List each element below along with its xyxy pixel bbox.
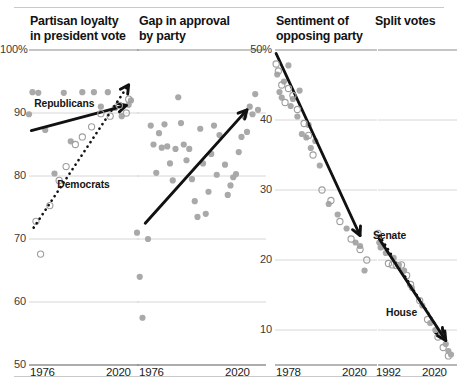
data-point — [98, 111, 104, 117]
data-point — [61, 90, 67, 96]
data-point — [51, 170, 57, 176]
data-point — [238, 134, 244, 140]
data-point — [352, 239, 358, 245]
data-point — [389, 262, 395, 268]
data-point — [79, 89, 85, 95]
panel-plot-3 — [0, 0, 457, 383]
data-point — [432, 327, 438, 333]
series-annotation-label: Republicans — [34, 98, 94, 109]
data-point — [42, 127, 48, 133]
data-point — [214, 172, 220, 178]
data-point — [175, 94, 181, 100]
data-point — [285, 62, 291, 68]
data-point — [216, 132, 222, 138]
data-point — [326, 201, 332, 207]
series-annotation-label: House — [386, 307, 417, 318]
data-point — [305, 132, 311, 138]
data-point — [88, 124, 94, 130]
data-point — [364, 257, 370, 263]
data-point — [419, 302, 425, 308]
data-point — [197, 126, 203, 132]
data-point — [391, 255, 397, 261]
y-axis-tick-label: 40 — [246, 113, 272, 125]
y-axis-tick-label: 80 — [0, 169, 26, 181]
data-point — [134, 230, 140, 236]
data-point — [153, 170, 159, 176]
data-point — [443, 341, 449, 347]
data-point — [445, 348, 451, 354]
data-point — [294, 106, 300, 112]
trend-arrowhead — [120, 85, 128, 94]
trend-arrowhead — [117, 103, 126, 111]
panel-title-3: Sentiment of opposing party — [276, 14, 363, 43]
data-point — [294, 113, 300, 119]
data-point — [119, 113, 125, 119]
y-axis-tick-label: 10 — [246, 323, 272, 335]
data-point — [317, 162, 323, 168]
data-point — [357, 243, 363, 249]
data-point — [183, 157, 189, 163]
panel-plot-1 — [0, 0, 457, 383]
data-point — [335, 211, 341, 217]
multi-panel-chart-figure: Partisan loyalty in president vote100%90… — [0, 0, 457, 383]
data-point — [139, 315, 145, 321]
data-point — [72, 141, 78, 147]
data-point — [379, 243, 385, 249]
data-point — [79, 134, 85, 140]
data-point — [63, 163, 69, 169]
data-point — [385, 260, 391, 266]
data-point — [303, 134, 309, 140]
data-point — [186, 146, 192, 152]
data-point — [310, 152, 316, 158]
data-point — [126, 102, 132, 108]
data-point — [357, 246, 363, 252]
data-point — [137, 274, 143, 280]
y-axis-tick-label: 70 — [0, 232, 26, 244]
data-point — [252, 91, 258, 97]
data-point — [178, 120, 184, 126]
data-point — [112, 105, 118, 111]
data-point — [404, 272, 410, 278]
data-point — [337, 218, 343, 224]
data-point — [290, 92, 296, 98]
data-point — [105, 89, 111, 95]
data-point — [305, 122, 311, 128]
x-axis-tick-label-end: 2020 — [422, 366, 447, 378]
x-axis-tick-label-start: 1976 — [30, 366, 55, 378]
data-point — [401, 267, 407, 273]
trend-line — [379, 239, 445, 341]
x-axis-tick-label-start: 1978 — [276, 366, 301, 378]
data-point — [203, 211, 209, 217]
y-axis-tick-label: 20 — [246, 253, 272, 265]
panel-title-1: Partisan loyalty in president vote — [30, 14, 126, 43]
y-axis-tick-label: 50% — [246, 43, 272, 55]
panel-title-4: Split votes — [375, 14, 435, 29]
data-point — [37, 251, 43, 257]
data-point — [194, 214, 200, 220]
y-axis-tick-label: 60 — [0, 295, 26, 307]
data-point — [319, 187, 325, 193]
data-point — [128, 97, 134, 103]
data-point — [393, 263, 399, 269]
trend-line — [145, 110, 247, 223]
data-point — [435, 334, 441, 340]
data-point — [290, 96, 296, 102]
data-point — [312, 138, 318, 144]
data-point — [208, 151, 214, 157]
data-point — [279, 82, 285, 88]
data-point — [29, 89, 35, 95]
data-point — [227, 182, 233, 188]
x-axis-tick-label-end: 2020 — [106, 366, 131, 378]
figure-top-divider — [14, 7, 444, 8]
data-point — [68, 138, 74, 144]
data-point — [116, 102, 122, 108]
data-point — [407, 281, 413, 287]
data-point — [33, 218, 39, 224]
data-point — [205, 189, 211, 195]
data-point — [273, 61, 279, 67]
x-axis-tick-label-start: 1976 — [139, 366, 164, 378]
data-point — [297, 88, 303, 94]
data-point — [285, 85, 291, 91]
data-point — [244, 129, 250, 135]
data-point — [396, 262, 402, 268]
